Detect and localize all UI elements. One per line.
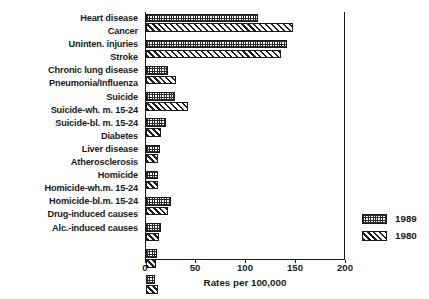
category-label: Heart disease: [0, 12, 142, 25]
bar-group: [146, 195, 344, 221]
bar-1989: [146, 118, 166, 127]
category-label: Drug-induced causes: [0, 208, 142, 221]
legend-swatch-icon: [362, 214, 387, 224]
category-label: Cancer: [0, 25, 142, 38]
plot-area: [145, 12, 345, 260]
bar-1980: [146, 50, 281, 59]
bar-chart: Heart diseaseCancerUninten. injuriesStro…: [0, 0, 429, 299]
bar-1980: [146, 23, 293, 32]
x-tick-label: 50: [190, 262, 201, 273]
bar-1989: [146, 171, 158, 180]
legend-label: 1980: [395, 230, 417, 241]
bar-1980: [146, 102, 188, 111]
bar-1989: [146, 145, 160, 154]
bar-1980: [146, 128, 161, 137]
x-tick-label: 150: [287, 262, 303, 273]
category-axis-labels: Heart diseaseCancerUninten. injuriesStro…: [0, 12, 142, 235]
bar-group: [146, 222, 344, 248]
category-label: Suicide-bl. m. 15-24: [0, 117, 142, 130]
x-axis-title: Rates per 100,000: [145, 277, 345, 288]
category-label: Suicide-wh. m. 15-24: [0, 104, 142, 117]
x-tick-label: 200: [337, 262, 353, 273]
bar-1989: [146, 197, 171, 206]
bar-1980: [146, 76, 176, 85]
legend-label: 1989: [395, 213, 417, 224]
category-label: Alc.-induced causes: [0, 222, 142, 235]
bar-1980: [146, 181, 158, 190]
category-label: Homicide-bl.m. 15-24: [0, 195, 142, 208]
bar-1989: [146, 66, 168, 75]
bar-group: [146, 169, 344, 195]
category-label: Homicide-wh.m. 15-24: [0, 182, 142, 195]
x-axis-ticks: 050100150200: [145, 260, 345, 270]
bar-1980: [146, 207, 168, 216]
bar-group: [146, 91, 344, 117]
bar-1989: [146, 223, 161, 232]
legend-item: 1989: [362, 210, 417, 227]
bar-1980: [146, 233, 159, 242]
category-label: Stroke: [0, 51, 142, 64]
category-label: Homicide: [0, 169, 142, 182]
bar-group: [146, 117, 344, 143]
bar-1989: [146, 92, 175, 101]
category-label: Chronic lung disease: [0, 64, 142, 77]
category-label: Liver disease: [0, 143, 142, 156]
bar-1980: [146, 154, 158, 163]
bar-1989: [146, 249, 157, 258]
category-label: Atherosclerosis: [0, 156, 142, 169]
bar-1989: [146, 14, 258, 23]
category-label: Suicide: [0, 91, 142, 104]
bar-1989: [146, 40, 287, 49]
category-label: Diabetes: [0, 130, 142, 143]
category-label: Uninten. injuries: [0, 38, 142, 51]
category-label: Pneumonia/Influenza: [0, 77, 142, 90]
legend-swatch-icon: [362, 231, 387, 241]
bar-group: [146, 38, 344, 64]
bar-group: [146, 64, 344, 90]
x-tick-label: 0: [142, 262, 147, 273]
x-tick-label: 100: [237, 262, 253, 273]
bar-group: [146, 12, 344, 38]
legend-item: 1980: [362, 227, 417, 244]
chart-legend: 19891980: [362, 210, 417, 244]
bar-group: [146, 143, 344, 169]
